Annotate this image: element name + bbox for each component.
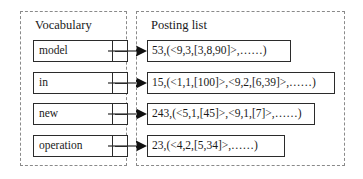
vocabulary-term-label: model (34, 41, 112, 61)
posting-list-entry[interactable]: 243,(<5,1,[45]>,<9,1,[7]>,……) (147, 103, 315, 125)
vocabulary-term-label: operation (34, 136, 112, 156)
posting-list-entry[interactable]: 53,(<9,3,[3,8,90]>,……) (147, 40, 291, 62)
inverted-index-diagram: Vocabulary model in new operation Postin… (0, 0, 363, 179)
posting-list-entry[interactable]: 23,(<4,2,[5,34]>,……) (147, 135, 285, 157)
vocabulary-panel-title: Vocabulary (35, 17, 92, 33)
posting-list-panel-title: Posting list (151, 17, 207, 33)
vocabulary-term-label: new (34, 104, 112, 124)
posting-list-entry[interactable]: 15,(<1,1,[100]>,<9,2,[6,39]>,……) (147, 72, 335, 94)
vocabulary-term-label: in (34, 73, 112, 93)
